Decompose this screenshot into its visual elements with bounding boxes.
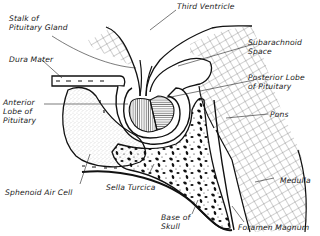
sphenoid-air-cell (63, 88, 146, 167)
label-dura-mater: Dura Mater (9, 55, 53, 64)
label-anterior-lobe: Anterior Lobe of Pituitary (3, 98, 36, 126)
label-sella-turcica: Sella Turcica (106, 183, 156, 192)
label-pons: Pons (270, 110, 289, 119)
label-stalk: Stalk of Pituitary Gland (9, 14, 68, 32)
label-third-ventricle: Third Ventricle (177, 2, 235, 11)
label-subarachnoid: Subarachnoid Space (248, 38, 302, 56)
label-foramen-magnum: Foramen Magnum (238, 223, 309, 232)
label-sphenoid: Sphenoid Air Cell (5, 188, 73, 197)
label-base-of-skull: Base of Skull (161, 213, 190, 231)
label-medulla: Medulla (280, 176, 311, 185)
hypothalamus-left (88, 26, 135, 68)
label-posterior-lobe: Posterior Lobe of Pituitary (248, 73, 305, 91)
